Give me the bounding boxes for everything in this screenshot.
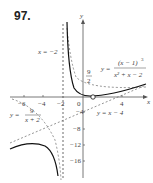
- vertical-asymptote-label: x = −2: [37, 48, 58, 56]
- function-label-exponent: 3: [141, 57, 144, 62]
- x-axis-label: x: [146, 98, 151, 106]
- tick-neg2: −2: [57, 100, 65, 108]
- hyperbola-label-lhs: y =: [9, 111, 20, 119]
- hole-point: [91, 95, 95, 99]
- function-curve-left: [10, 144, 58, 176]
- y-axis-label: y: [79, 12, 84, 20]
- function-label-numerator: (x − 1): [118, 59, 138, 67]
- hyperbola-label-denominator: x + 2: [24, 116, 40, 124]
- function-label-lhs: y =: [100, 65, 111, 73]
- slant-asymptote-label: y = x − 4: [96, 109, 124, 117]
- function-label-denominator: x² + x − 2: [113, 71, 143, 79]
- ytick-neg8: −8: [73, 125, 81, 133]
- chart: x y −6 −4 −2 0 4 −4 −8 −12 −16 x = −2 9 …: [0, 0, 153, 183]
- tick-neg6: −6: [18, 100, 26, 108]
- tick-0: 0: [77, 100, 81, 108]
- hyperbola-label-numerator: 9: [30, 107, 34, 115]
- intercept-denominator: 2: [87, 77, 91, 85]
- ytick-neg4: −4: [76, 108, 84, 116]
- ytick-neg12: −12: [70, 141, 81, 149]
- tick-4: 4: [120, 100, 124, 108]
- intercept-numerator: 9: [87, 68, 91, 76]
- ytick-neg16: −16: [70, 157, 81, 165]
- tick-neg4: −4: [38, 100, 46, 108]
